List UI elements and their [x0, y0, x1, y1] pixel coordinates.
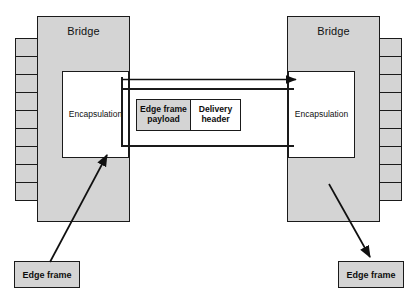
- left-bridge-label: Bridge: [38, 25, 129, 37]
- port-cell: [379, 182, 402, 201]
- tunnel-bottom-edge: [122, 145, 294, 147]
- port-cell: [379, 38, 402, 57]
- tunnel-left-wall: [121, 77, 123, 147]
- bottom-right-edge-frame-label: Edge frame: [346, 270, 395, 280]
- right-port-cell-stack: [379, 38, 402, 200]
- port-cell: [379, 56, 402, 75]
- encapsulation-diagram: Bridge Encapsulation Bridge Encapsulatio…: [0, 0, 417, 301]
- bottom-right-edge-frame-box: Edge frame: [338, 261, 404, 288]
- packet-field-edge-frame-payload: Edge frame payload: [137, 100, 191, 130]
- encapsulated-packet: Edge frame payload Delivery header: [136, 99, 241, 131]
- left-encapsulation-label: Encapsulation: [69, 110, 122, 119]
- port-cell: [379, 164, 402, 183]
- port-cell: [15, 92, 38, 111]
- port-cell: [379, 92, 402, 111]
- port-cell: [15, 128, 38, 147]
- port-cell: [379, 146, 402, 165]
- left-encapsulation-box: Encapsulation: [62, 71, 129, 158]
- port-cell: [15, 38, 38, 57]
- bottom-left-edge-frame-box: Edge frame: [14, 261, 80, 288]
- port-cell: [379, 110, 402, 129]
- right-bridge-label: Bridge: [288, 25, 379, 37]
- port-cell: [15, 110, 38, 129]
- port-cell: [15, 74, 38, 93]
- port-cell: [379, 74, 402, 93]
- packet-field-delivery-header: Delivery header: [191, 100, 240, 130]
- port-cell: [15, 164, 38, 183]
- bottom-left-edge-frame-label: Edge frame: [22, 270, 71, 280]
- port-cell: [379, 128, 402, 147]
- port-cell: [15, 182, 38, 201]
- right-encapsulation-label: Encapsulation: [295, 110, 348, 119]
- port-cell: [15, 146, 38, 165]
- port-cell: [15, 56, 38, 75]
- right-encapsulation-box: Encapsulation: [288, 71, 355, 158]
- tunnel-top-edge: [122, 88, 294, 90]
- left-port-cell-stack: [15, 38, 38, 200]
